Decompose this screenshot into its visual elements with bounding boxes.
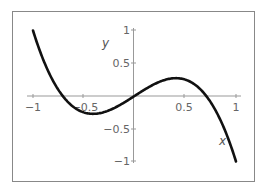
x-tick-label: 1 xyxy=(233,101,240,114)
x-tick-label: 0.5 xyxy=(175,101,193,114)
y-tick-label: −1 xyxy=(114,155,130,168)
y-axis-label: y xyxy=(101,36,110,50)
x-tick-label: −1 xyxy=(25,101,41,114)
y-tick-label: −0.5 xyxy=(103,123,130,136)
chart-plot: −1 −0.5 0.5 1 1 0.5 −0.5 −1 y x xyxy=(0,0,264,192)
y-tick-label: 1 xyxy=(123,24,130,37)
x-axis-label: x xyxy=(218,134,227,148)
y-tick-label: 0.5 xyxy=(113,57,131,70)
